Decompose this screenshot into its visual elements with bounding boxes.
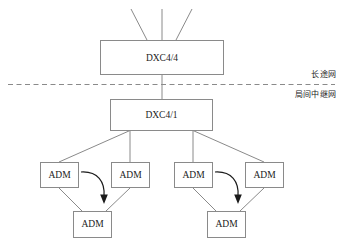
node-dxc44-label: DXC4/4 xyxy=(146,53,178,63)
traffic-arrow-left-head xyxy=(100,195,108,204)
diagram-canvas: DXC4/4 长途网 局间中继网 DXC4/1 xyxy=(0,0,343,249)
trunk-fanout-lines xyxy=(131,9,192,40)
node-adm-left-3[interactable]: ADM xyxy=(74,212,112,238)
node-adm-right-3-label: ADM xyxy=(215,219,238,229)
traffic-arrow-left-curve xyxy=(81,172,104,196)
node-adm-right-2-label: ADM xyxy=(253,170,276,180)
link-adm-left-1-to-3 xyxy=(59,188,82,211)
trunk-line-right xyxy=(176,9,192,40)
node-adm-right-2[interactable]: ADM xyxy=(246,163,284,188)
node-adm-left-2[interactable]: ADM xyxy=(112,163,150,188)
traffic-arrow-right-head xyxy=(234,195,242,204)
node-dxc41[interactable]: DXC4/1 xyxy=(111,100,213,131)
node-adm-left-1-label: ADM xyxy=(48,170,71,180)
link-dxc41-to-adm-left-1 xyxy=(59,131,130,163)
node-adm-left-2-label: ADM xyxy=(119,170,142,180)
node-adm-left-3-label: ADM xyxy=(81,219,104,229)
node-adm-right-1[interactable]: ADM xyxy=(175,163,213,188)
node-adm-right-1-label: ADM xyxy=(182,170,205,180)
node-adm-right-3[interactable]: ADM xyxy=(208,212,246,238)
zone-label-upper: 长途网 xyxy=(311,69,336,79)
adm-ring-right: ADM ADM ADM xyxy=(175,163,284,238)
trunk-line-left xyxy=(131,9,147,40)
link-adm-right-2-to-3 xyxy=(240,188,264,211)
dxc41-to-adm-links xyxy=(59,131,264,163)
traffic-arrow-right-curve xyxy=(215,172,238,196)
node-dxc44[interactable]: DXC4/4 xyxy=(101,41,224,75)
network-topology-diagram: DXC4/4 长途网 局间中继网 DXC4/1 xyxy=(0,0,343,249)
node-dxc41-label: DXC4/1 xyxy=(145,110,177,120)
node-adm-left-1[interactable]: ADM xyxy=(41,163,79,188)
link-dxc41-to-adm-right-2 xyxy=(193,131,264,163)
link-adm-left-2-to-3 xyxy=(106,188,130,211)
zone-label-lower: 局间中继网 xyxy=(295,89,336,99)
adm-ring-left: ADM ADM ADM xyxy=(41,163,150,238)
link-adm-right-1-to-3 xyxy=(193,188,216,211)
